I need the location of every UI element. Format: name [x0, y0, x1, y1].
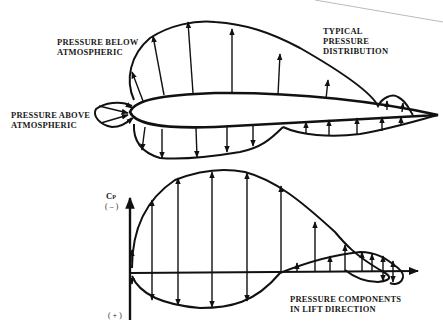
label-line: DISTRIBUTION: [323, 46, 388, 56]
cp-positive-label: ( + ): [108, 311, 122, 321]
leading-edge-arrows: [99, 104, 133, 123]
label-line: TYPICAL: [323, 26, 388, 36]
scan-artifact-line: [315, 0, 443, 22]
cp-subscript: P: [112, 194, 116, 200]
airfoil-outline: [130, 93, 438, 127]
caption-lift-components: PRESSURE COMPONENTS IN LIFT DIRECTION: [290, 294, 401, 314]
label-line: PRESSURE: [323, 36, 388, 46]
label-line: PRESSURE BELOW: [57, 37, 138, 47]
label-line: PRESSURE ABOVE: [11, 110, 90, 120]
caption-line: IN LIFT DIRECTION: [290, 304, 401, 314]
cp-negative-label: ( – ): [105, 202, 119, 212]
label-typical-distribution: TYPICAL PRESSURE DISTRIBUTION: [323, 26, 388, 56]
suction-curve: [132, 170, 389, 282]
cp-axis-label: CP: [106, 191, 116, 202]
lift-arrows: [132, 172, 393, 307]
label-pressure-below: PRESSURE BELOW ATMOSPHERIC: [57, 37, 138, 57]
label-pressure-above: PRESSURE ABOVE ATMOSPHERIC: [11, 110, 90, 130]
caption-line: PRESSURE COMPONENTS: [290, 294, 401, 304]
label-line: ATMOSPHERIC: [11, 120, 90, 130]
lower-pressure-envelope: [134, 124, 283, 159]
chord-axis: [130, 271, 418, 273]
label-line: ATMOSPHERIC: [57, 47, 138, 57]
